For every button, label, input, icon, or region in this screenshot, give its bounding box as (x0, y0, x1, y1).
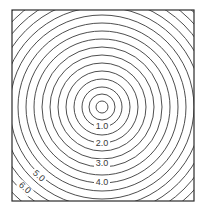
svg-text:2.0: 2.0 (96, 138, 109, 148)
contour-ring (34, 39, 170, 175)
svg-text:3.0: 3.0 (96, 158, 109, 168)
contour-label: 6.0 (16, 179, 35, 197)
svg-text:4.0: 4.0 (96, 177, 109, 187)
contour-ring (66, 71, 138, 143)
contour-label: 2.0 (94, 138, 110, 148)
contour-label: 4.0 (94, 177, 110, 187)
contour-label: 3.0 (94, 158, 110, 168)
contour-ring (96, 101, 108, 113)
contour-labels: 1.02.03.04.05.06.0 (16, 121, 110, 197)
contour-plot: 1.02.03.04.05.06.0 (0, 0, 205, 214)
svg-text:1.0: 1.0 (96, 121, 109, 131)
contour-label: 1.0 (94, 121, 110, 131)
contour-ring (89, 94, 115, 120)
contour-ring (42, 47, 162, 167)
